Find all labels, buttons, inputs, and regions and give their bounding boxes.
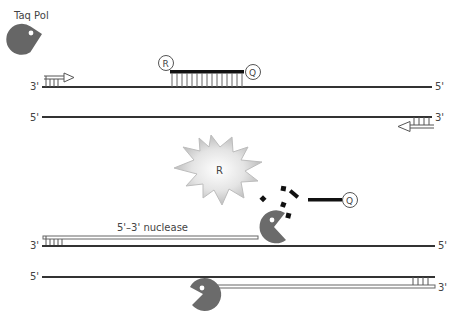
p1-top-right-end: 5'	[435, 81, 444, 92]
released-quencher-label: Q	[346, 196, 353, 206]
p2-top-right-end: 5'	[438, 240, 447, 251]
nuclease-label: 5'–3' nuclease	[117, 222, 188, 233]
polymerase-icon-top	[260, 210, 286, 243]
reporter-label: R	[163, 59, 169, 69]
p1-bottom-right-end: 3'	[435, 112, 444, 123]
p1-top-left-end: 3'	[30, 81, 39, 92]
p2-bottom-left-end: 5'	[30, 271, 39, 282]
taq-pol-label: Taq Pol	[13, 10, 49, 21]
released-reporter-label: R	[216, 165, 223, 176]
quencher-label: Q	[249, 68, 256, 78]
forward-primer-icon	[44, 73, 74, 87]
reverse-primer-icon	[398, 117, 434, 132]
probe: R Q	[159, 56, 261, 88]
taqman-diagram: Taq Pol 3' 5' R Q	[0, 0, 464, 329]
p2-extended-strand-top	[43, 236, 258, 245]
polymerase-icon	[6, 24, 42, 55]
p1-bottom-left-end: 5'	[30, 112, 39, 123]
fluorescence-burst-icon: R	[174, 135, 262, 205]
p2-extended-strand-bottom	[210, 277, 435, 288]
polymerase-icon-bottom	[190, 278, 221, 311]
p2-bottom-right-end: 3'	[438, 282, 447, 293]
p2-top-left-end: 3'	[30, 240, 39, 251]
released-quencher-strand	[308, 198, 342, 202]
